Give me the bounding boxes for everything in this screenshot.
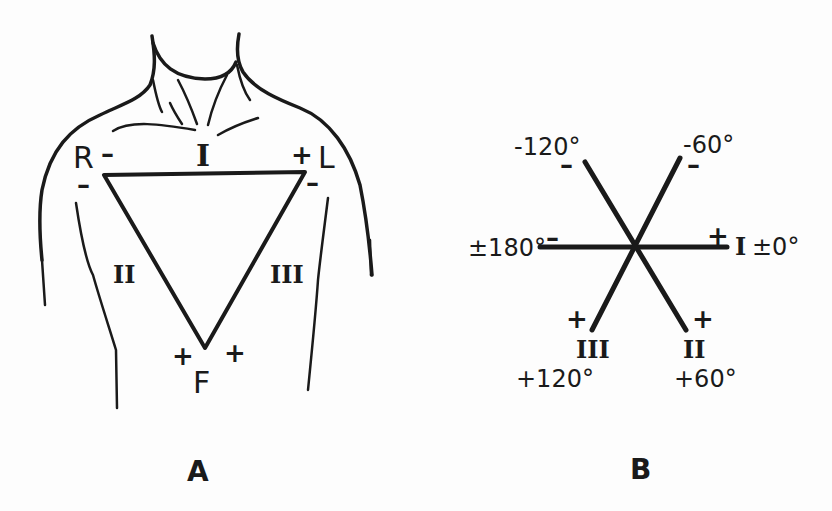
angle-180-label: ±180° (468, 236, 546, 260)
polarity-sign: + (291, 142, 313, 168)
panel-a-label: A (187, 458, 209, 486)
polarity-sign: – (546, 225, 559, 251)
lead-II-label: II (113, 263, 135, 287)
polarity-sign: – (687, 152, 700, 178)
arm-left-inner (76, 203, 117, 408)
polarity-sign: + (707, 223, 729, 249)
torso-drawing (0, 0, 832, 511)
arm-right-inner (308, 198, 328, 390)
neck-muscle-line (178, 80, 197, 124)
arm-right-outer-lower (370, 240, 371, 275)
lead-I-label: I (196, 141, 210, 171)
neck-muscle-line (170, 103, 182, 124)
electrode-right-label: R (73, 143, 94, 173)
neck-muscle-line (153, 80, 162, 112)
axis-lead-III (592, 158, 680, 330)
polarity-sign: + (172, 343, 194, 369)
electrode-left-label: L (318, 143, 335, 173)
panel-b-label: B (630, 456, 651, 484)
angle-plus-120-label: +120° (516, 367, 594, 391)
neck-left-outline (40, 36, 155, 260)
axis-lead-III-label: III (576, 338, 610, 362)
polarity-sign: – (560, 152, 573, 178)
einthoven-figure: R – – I + L – II III + + F A -120° – -60… (0, 0, 832, 511)
neck-muscle-line (208, 75, 227, 125)
clavicle-right (218, 118, 258, 135)
polarity-sign: + (224, 340, 246, 366)
polarity-sign: – (101, 141, 114, 167)
polarity-sign: – (77, 172, 90, 198)
angle-0-label: ±0° (752, 235, 799, 259)
clavicle-left (113, 124, 195, 131)
axis-lead-II-label: II (683, 338, 705, 362)
polarity-sign: – (306, 170, 319, 196)
electrode-foot-label: F (193, 368, 210, 398)
polarity-sign: + (692, 306, 714, 332)
axis-lead-I-label: I (735, 235, 746, 259)
arm-left-outer (42, 260, 45, 305)
lead-III-label: III (270, 263, 304, 287)
polarity-sign: + (566, 306, 588, 332)
jaw-curve (153, 43, 236, 79)
angle-plus-60-label: +60° (674, 367, 737, 391)
